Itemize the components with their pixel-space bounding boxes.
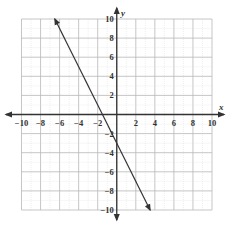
- x-tick-label: −2: [93, 118, 102, 128]
- x-tick-label: −4: [74, 118, 84, 128]
- y-tick-label: −10: [100, 205, 113, 215]
- x-tick-label: −10: [15, 118, 28, 128]
- x-tick-label: −8: [36, 118, 45, 128]
- x-tick-label: −6: [55, 118, 64, 128]
- coordinate-plane: −10−8−6−4−2246810−10−8−6−4−2246810 x y: [0, 0, 231, 226]
- x-tick-label: 4: [153, 118, 158, 128]
- y-tick-label: −6: [105, 167, 114, 177]
- x-tick-label: 6: [172, 118, 176, 128]
- y-tick-label: −8: [105, 186, 114, 196]
- x-tick-label: 10: [208, 118, 217, 128]
- x-axis-label: x: [218, 102, 224, 112]
- axes: [6, 8, 224, 220]
- y-tick-label: 8: [110, 33, 114, 43]
- x-tick-label: 8: [191, 118, 195, 128]
- y-axis-label: y: [120, 8, 126, 18]
- y-tick-label: 2: [110, 90, 114, 100]
- x-tick-label: 2: [134, 118, 138, 128]
- y-tick-label: 10: [105, 14, 114, 24]
- y-tick-label: −4: [105, 148, 115, 158]
- y-tick-label: 6: [110, 52, 114, 62]
